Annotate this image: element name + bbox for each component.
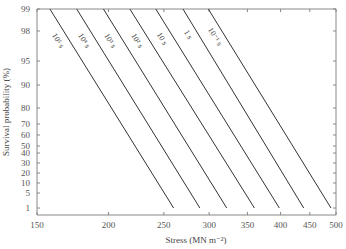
y-tick-label: 95 <box>21 56 31 66</box>
series-label: 10 s <box>155 31 170 47</box>
survival-probability-chart: 9998959080706050403020105115020025030035… <box>0 0 346 249</box>
x-tick-label: 400 <box>274 220 288 230</box>
y-tick-label: 10 <box>21 178 31 188</box>
y-tick-label: 20 <box>21 168 31 178</box>
y-tick-label: 99 <box>21 4 31 14</box>
series-line <box>183 9 304 208</box>
series-lines <box>50 9 331 208</box>
y-tick-label: 5 <box>26 188 31 198</box>
x-tick-label: 150 <box>30 220 44 230</box>
series-line <box>208 9 331 208</box>
series-label: 10³ s <box>102 32 118 50</box>
y-tick-label: 60 <box>21 130 31 140</box>
series-label: 10² s <box>129 32 145 50</box>
x-tick-label: 500 <box>329 220 343 230</box>
series-label: 10⁻¹ s <box>206 26 224 48</box>
series-label: 10⁴ s <box>76 32 92 50</box>
x-tick-label: 300 <box>202 220 216 230</box>
y-axis-title: Survival probability (%) <box>1 68 11 156</box>
x-axis-title: Stress (MN m⁻²) <box>166 235 227 245</box>
x-tick-label: 350 <box>241 220 255 230</box>
x-tick-label: 200 <box>102 220 116 230</box>
axes: 9998959080706050403020105115020025030035… <box>21 4 343 230</box>
y-tick-label: 1 <box>26 203 31 213</box>
y-tick-label: 90 <box>21 80 31 90</box>
x-tick-label: 450 <box>303 220 317 230</box>
y-tick-label: 98 <box>21 26 31 36</box>
x-tick-label: 250 <box>157 220 171 230</box>
series-label: 1 s <box>182 28 194 40</box>
series-label: 10⁵ s <box>50 32 66 50</box>
y-tick-label: 80 <box>21 103 31 113</box>
y-tick-label: 40 <box>21 148 31 158</box>
series-labels: 10⁵ s10⁴ s10³ s10² s10 s1 s10⁻¹ s <box>50 26 224 50</box>
series-line <box>130 9 255 208</box>
y-tick-label: 70 <box>21 119 31 129</box>
y-tick-label: 30 <box>21 158 31 168</box>
